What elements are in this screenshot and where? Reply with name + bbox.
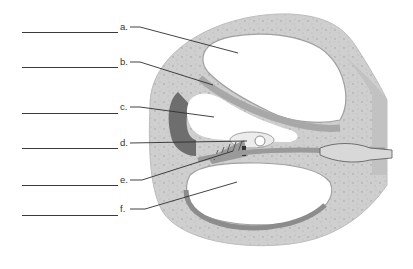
answer-blank-e[interactable] bbox=[22, 185, 118, 186]
answer-blank-c[interactable] bbox=[22, 113, 118, 114]
answer-blank-a[interactable] bbox=[22, 32, 118, 33]
label-f: f. bbox=[120, 204, 125, 214]
answer-blank-d[interactable] bbox=[22, 148, 118, 149]
answer-blank-f[interactable] bbox=[22, 215, 118, 216]
label-a: a. bbox=[120, 22, 128, 32]
label-c: c. bbox=[120, 102, 127, 112]
label-d: d. bbox=[120, 138, 128, 148]
label-e: e. bbox=[120, 175, 128, 185]
tunnel bbox=[255, 136, 265, 146]
label-b: b. bbox=[120, 57, 128, 67]
cochlea-illustration bbox=[0, 0, 413, 269]
answer-blank-b[interactable] bbox=[22, 67, 118, 68]
cochlea-diagram: a. b. c. d. e. f. bbox=[0, 0, 413, 269]
